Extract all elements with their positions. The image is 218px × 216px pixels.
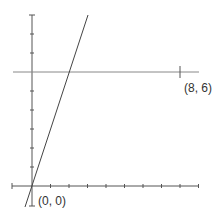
coordinate-diagram: (8, 6) (0, 0): [0, 0, 218, 216]
y-axis: [29, 15, 35, 206]
line-y-equals-3x: [25, 15, 88, 207]
origin-label: (0, 0): [38, 194, 66, 208]
x-axis: [12, 183, 199, 189]
diagram-canvas: [0, 0, 218, 216]
point-label: (8, 6): [184, 81, 212, 95]
horizontal-line-y6: [13, 66, 199, 78]
